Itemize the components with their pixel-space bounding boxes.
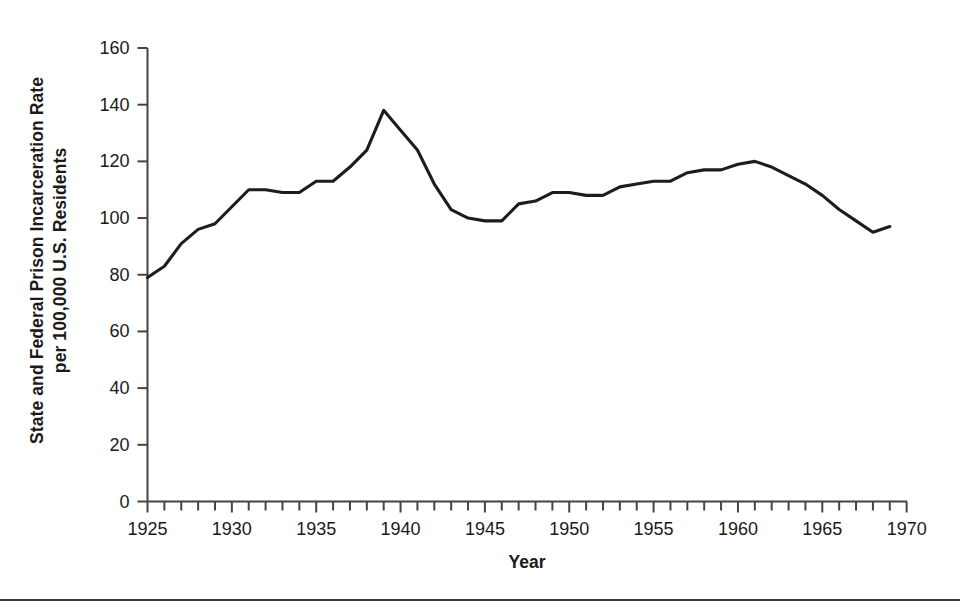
x-tick-label: 1925 bbox=[127, 519, 167, 539]
x-tick-label: 1945 bbox=[465, 519, 505, 539]
x-axis-tick-labels: 1925193019351940194519501955196019651970 bbox=[127, 519, 926, 539]
data-series-line bbox=[148, 110, 890, 277]
x-tick-label: 1935 bbox=[296, 519, 336, 539]
incarceration-rate-figure: State and Federal Prison Incarceration R… bbox=[0, 0, 960, 615]
y-tick-label: 80 bbox=[109, 265, 129, 285]
y-tick-label: 100 bbox=[99, 208, 129, 228]
x-tick-label: 1970 bbox=[887, 519, 927, 539]
x-tick-label: 1950 bbox=[549, 519, 589, 539]
x-tick-label: 1940 bbox=[381, 519, 421, 539]
y-axis-tick-labels: 020406080100120140160 bbox=[99, 38, 129, 512]
y-tick-label: 160 bbox=[99, 38, 129, 58]
x-tick-label: 1965 bbox=[802, 519, 842, 539]
x-tick-label: 1960 bbox=[718, 519, 758, 539]
y-tick-label: 60 bbox=[109, 321, 129, 341]
y-tick-label: 120 bbox=[99, 151, 129, 171]
bottom-divider bbox=[0, 599, 960, 601]
y-tick-label: 40 bbox=[109, 378, 129, 398]
line-chart-plot: 020406080100120140160 192519301935194019… bbox=[0, 0, 960, 615]
x-tick-label: 1955 bbox=[634, 519, 674, 539]
y-axis-tick-marks bbox=[138, 48, 148, 502]
x-axis-title: Year bbox=[147, 552, 907, 573]
x-axis-tick-marks bbox=[148, 502, 907, 513]
y-tick-label: 0 bbox=[119, 492, 129, 512]
x-tick-label: 1930 bbox=[212, 519, 252, 539]
y-tick-label: 20 bbox=[109, 435, 129, 455]
y-tick-label: 140 bbox=[99, 95, 129, 115]
